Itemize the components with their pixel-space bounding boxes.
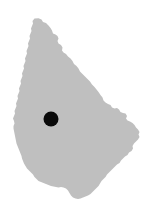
location-marker-icon[interactable] (44, 112, 59, 127)
map-canvas (0, 0, 167, 221)
map-figure: Barbados Bridgetown Barbados island land… (0, 0, 167, 221)
barbados-landmass (13, 18, 140, 199)
